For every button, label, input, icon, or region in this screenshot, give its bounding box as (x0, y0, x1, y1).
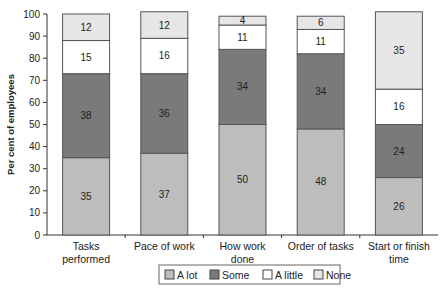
bar-stack: 4834116 (297, 16, 344, 235)
bar-stack: 26241635 (375, 12, 422, 235)
y-tick-label: 90 (29, 31, 41, 42)
x-category-label: How work (219, 240, 266, 252)
legend: A lotSomeA littleNone (159, 265, 351, 284)
segment-value-label: 6 (318, 17, 324, 28)
y-tick-label: 30 (29, 163, 41, 174)
segment-value-label: 24 (393, 146, 405, 157)
y-tick-label: 100 (23, 9, 40, 20)
legend-item: A lot (165, 269, 198, 281)
y-tick-label: 80 (29, 53, 41, 64)
x-category-label: Tasks (73, 240, 100, 252)
legend-label: None (326, 269, 351, 281)
segment-value-label: 4 (240, 15, 246, 26)
segment-value-label: 37 (159, 189, 171, 200)
segment-value-label: 12 (81, 22, 93, 33)
legend-item: Some (210, 269, 250, 281)
segment-value-label: 11 (237, 32, 248, 43)
bar-stack: 5034114 (219, 15, 266, 235)
bar-stack: 35381512 (63, 14, 110, 235)
legend-label: A little (275, 269, 303, 281)
y-axis-label: Per cent of employees (5, 74, 16, 175)
y-tick-label: 70 (29, 75, 41, 86)
x-category-label: performed (62, 253, 110, 265)
stacked-bar-chart: Per cent of employees 010203040506070809… (0, 0, 446, 292)
y-tick-label: 60 (29, 97, 41, 108)
legend-label: A lot (177, 269, 198, 281)
legend-swatch (263, 270, 272, 279)
x-category-label: done (231, 253, 255, 265)
x-category-label: time (389, 253, 409, 265)
y-tick-label: 20 (29, 185, 41, 196)
segment-value-label: 34 (315, 86, 327, 97)
legend-item: None (314, 269, 351, 281)
legend-label: Some (222, 269, 250, 281)
segment-value-label: 50 (237, 174, 249, 185)
bar-stack: 37361612 (141, 12, 188, 235)
legend-swatch (165, 270, 174, 279)
segment-value-label: 35 (393, 45, 405, 56)
x-category-label: Pace of work (134, 240, 195, 252)
x-category-label: Start or finish (368, 240, 430, 252)
segment-value-label: 48 (315, 176, 327, 187)
y-tick-label: 40 (29, 141, 41, 152)
segment-value-label: 36 (159, 108, 171, 119)
legend-swatch (314, 270, 323, 279)
segment-value-label: 16 (393, 101, 405, 112)
legend-item: A little (263, 269, 303, 281)
segment-value-label: 11 (316, 36, 327, 47)
y-tick-label: 10 (29, 207, 41, 218)
segment-value-label: 16 (159, 50, 171, 61)
bars: 35381512373616125034114483411626241635 (63, 12, 423, 235)
legend-swatch (210, 270, 219, 279)
x-category-label: Order of tasks (288, 240, 354, 252)
y-axis-title: Per cent of employees (5, 74, 16, 175)
category-labels: TasksperformedPace of workHow workdoneOr… (62, 240, 430, 265)
segment-value-label: 34 (237, 81, 249, 92)
segment-value-label: 35 (81, 191, 93, 202)
segment-value-label: 12 (159, 20, 171, 31)
segment-value-label: 38 (81, 110, 93, 121)
y-tick-label: 0 (34, 230, 40, 241)
y-tick-label: 50 (29, 119, 41, 130)
segment-value-label: 26 (393, 201, 405, 212)
segment-value-label: 15 (81, 52, 93, 63)
